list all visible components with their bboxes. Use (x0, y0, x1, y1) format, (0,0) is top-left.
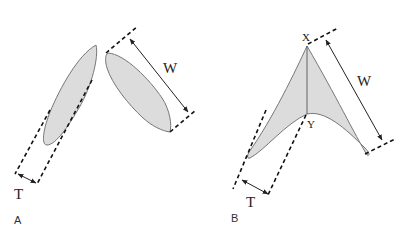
panel-a-thickness-label: T (14, 186, 23, 202)
panel-a-width-guide-bottom (170, 110, 196, 132)
panel-b-width-guide-top (308, 28, 338, 44)
panel-b: X Y W T B (231, 28, 395, 224)
panel-b-thickness-arrow (242, 180, 268, 194)
panel-b-chevron-leaf (248, 46, 369, 158)
panel-b-apex-label: X (302, 31, 310, 43)
panel-b-thickness-label: T (246, 194, 255, 210)
panel-a-thickness-arrow (18, 174, 36, 183)
panel-a-width-guide-top (106, 26, 138, 53)
panel-b-width-arrow (326, 40, 382, 140)
panel-a-label: A (14, 214, 22, 226)
panel-a-width-label: W (163, 60, 178, 76)
panel-a: W T A (14, 26, 196, 226)
panel-b-label: B (231, 212, 238, 224)
panel-a-right-leaf (106, 53, 171, 132)
panel-b-width-label: W (357, 73, 372, 89)
diagram-figure: W T A X Y W T B (0, 0, 406, 241)
panel-b-inner-vertex-label: Y (307, 118, 315, 130)
panel-a-left-leaf (43, 45, 96, 145)
panel-b-width-guide-bottom (365, 139, 395, 154)
